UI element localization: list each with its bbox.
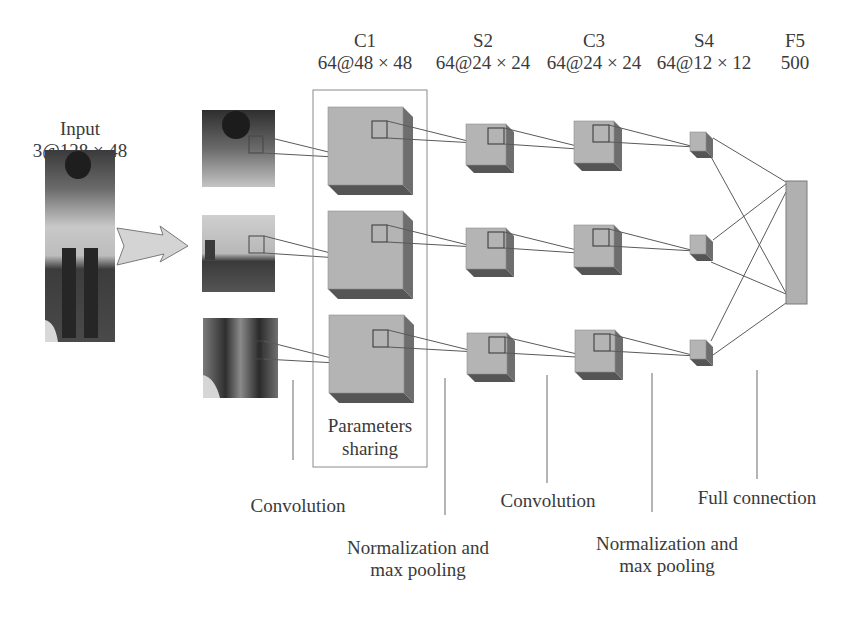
connectors-s4-f5	[710, 138, 786, 355]
network-diagram	[0, 0, 860, 618]
parameters-sharing-line1: Parameters	[313, 414, 427, 437]
arrow-icon	[117, 226, 188, 265]
connectors-c3-s4	[609, 125, 696, 356]
c3-cube-1	[574, 121, 622, 171]
c1-cube-2	[328, 211, 413, 299]
part-crop-upper	[202, 110, 275, 187]
parameters-sharing-line2: sharing	[313, 437, 427, 460]
c1-cube-3	[329, 315, 414, 403]
s2-cube-3	[467, 333, 515, 382]
op-pool1-line1: Normalization and	[318, 537, 518, 559]
c3-cube-2	[574, 225, 622, 275]
input-image	[45, 150, 115, 342]
op-pool2-line2: max pooling	[567, 555, 767, 577]
op-label-full-connection: Full connection	[682, 487, 832, 509]
c3-cubes	[574, 121, 623, 380]
s2-cube-2	[466, 228, 514, 277]
s4-cube-2	[690, 235, 713, 261]
op-label-convolution-1: Convolution	[228, 495, 368, 517]
s2-cubes	[466, 124, 515, 382]
f5-fc-layer	[786, 181, 807, 304]
c3-cube-3	[575, 330, 623, 380]
s4-cube-3	[690, 340, 713, 366]
s4-cubes	[690, 132, 713, 366]
parameters-sharing-label: Parameters sharing	[313, 414, 427, 460]
op-pool2-line1: Normalization and	[567, 533, 767, 555]
op-pool1-line2: max pooling	[318, 559, 518, 581]
op-label-normalization-pooling-2: Normalization and max pooling	[567, 533, 767, 577]
op-label-convolution-2: Convolution	[478, 490, 618, 512]
op-label-normalization-pooling-1: Normalization and max pooling	[318, 537, 518, 581]
part-crop-lower	[203, 318, 278, 398]
s2-cube-1	[466, 124, 514, 173]
c1-cubes	[328, 107, 414, 403]
s4-cube-1	[690, 132, 713, 158]
c1-cube-1	[328, 107, 413, 195]
